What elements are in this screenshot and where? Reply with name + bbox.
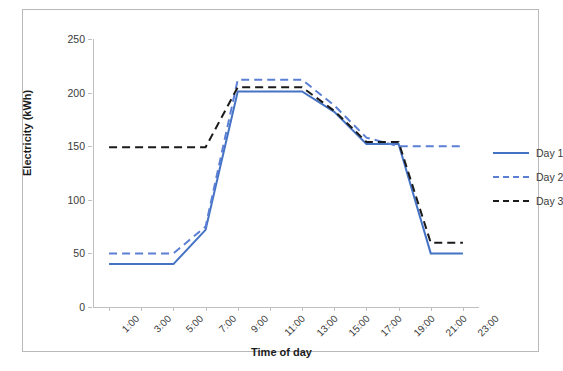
y-axis-tick-mark (88, 39, 92, 40)
series-line-day-3 (109, 87, 463, 242)
x-axis-tick-label: 11:00 (282, 313, 307, 338)
x-axis-tick-mark (334, 307, 335, 311)
chart-frame: Electricity (kWh) 050100150200250 1:003:… (22, 9, 539, 352)
y-axis-tick-label: 200 (23, 87, 85, 99)
y-axis-tick-label: 0 (23, 301, 85, 313)
x-axis-tick-mark (366, 307, 367, 311)
x-axis-tick-mark (463, 307, 464, 311)
series-line-day-2 (109, 80, 463, 254)
x-axis-tick-label: 21:00 (443, 313, 468, 338)
x-axis-tick-mark (302, 307, 303, 311)
y-axis-tick-mark (88, 200, 92, 201)
y-axis-tick-mark (88, 307, 92, 308)
legend-label: Day 1 (536, 147, 563, 159)
x-axis-tick-mark (431, 307, 432, 311)
y-axis-tick-mark (88, 253, 92, 254)
y-axis-tick-label: 250 (23, 33, 85, 45)
x-axis-tick-mark (270, 307, 271, 311)
legend-swatch-icon (493, 200, 529, 202)
x-axis-tick-label: 19:00 (411, 313, 436, 338)
legend-label: Day 2 (536, 171, 563, 183)
x-axis-tick-mark (141, 307, 142, 311)
legend-item-day-1[interactable]: Day 1 (493, 141, 563, 165)
series-paths (93, 39, 479, 307)
x-axis-tick-label: 7:00 (216, 313, 238, 335)
x-axis-tick-label: 5:00 (184, 313, 206, 335)
x-axis-tick-mark (206, 307, 207, 311)
y-axis-tick-label: 100 (23, 194, 85, 206)
legend-item-day-2[interactable]: Day 2 (493, 165, 563, 189)
x-axis-tick-label: 23:00 (475, 313, 500, 338)
y-axis-tick-label: 50 (23, 247, 85, 259)
legend-label: Day 3 (536, 195, 563, 207)
y-axis-title: Electricity (kWh) (21, 90, 33, 176)
y-axis-tick-mark (88, 93, 92, 94)
x-axis-tick-label: 9:00 (248, 313, 270, 335)
x-axis-tick-mark (238, 307, 239, 311)
x-axis-tick-label: 17:00 (379, 313, 404, 338)
x-axis-tick-mark (109, 307, 110, 311)
x-axis-tick-label: 13:00 (314, 313, 339, 338)
y-axis-tick-mark (88, 146, 92, 147)
chart-legend: Day 1Day 2Day 3 (493, 141, 563, 213)
legend-swatch-icon (493, 152, 529, 154)
legend-swatch-icon (493, 176, 529, 178)
x-axis-tick-mark (399, 307, 400, 311)
x-axis-line (93, 307, 479, 308)
x-axis-tick-label: 15:00 (347, 313, 372, 338)
legend-item-day-3[interactable]: Day 3 (493, 189, 563, 213)
x-axis-tick-mark (173, 307, 174, 311)
x-axis-tick-label: 3:00 (152, 313, 174, 335)
x-axis-tick-label: 1:00 (120, 313, 142, 335)
plot-area (93, 39, 479, 307)
y-axis-tick-label: 150 (23, 140, 85, 152)
x-axis-title: Time of day (23, 346, 540, 358)
